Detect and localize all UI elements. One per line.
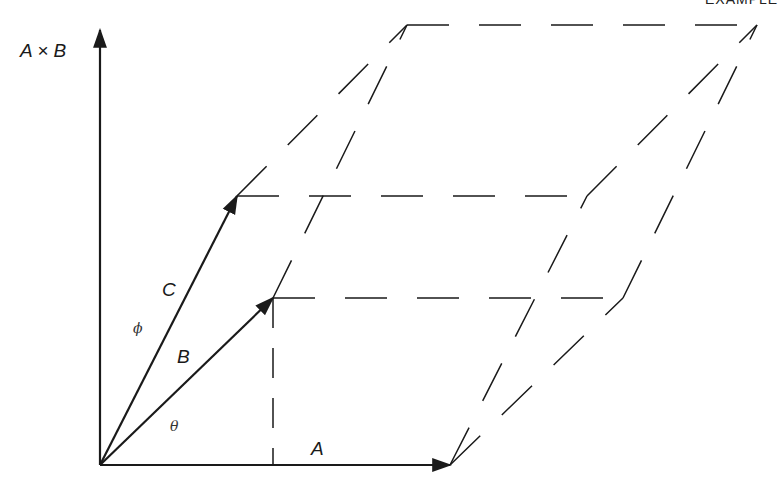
vector-b <box>100 298 273 465</box>
page-header-text: EXAMPLE <box>705 0 778 7</box>
edge-b-to-bc <box>273 25 407 298</box>
label-a: A <box>311 438 324 460</box>
label-a-cross-b: A × B <box>20 40 66 62</box>
edge-c-to-bc <box>237 25 407 196</box>
edge-a-to-ac <box>450 196 587 465</box>
edge-ac-to-abc <box>587 25 757 196</box>
label-b: B <box>177 346 190 368</box>
edge-ab-to-abc <box>623 25 757 298</box>
label-c: C <box>162 279 176 301</box>
edge-a-to-ab <box>450 298 623 465</box>
label-theta: θ <box>170 418 178 434</box>
label-phi: ϕ <box>133 320 143 336</box>
vector-c <box>100 196 237 465</box>
